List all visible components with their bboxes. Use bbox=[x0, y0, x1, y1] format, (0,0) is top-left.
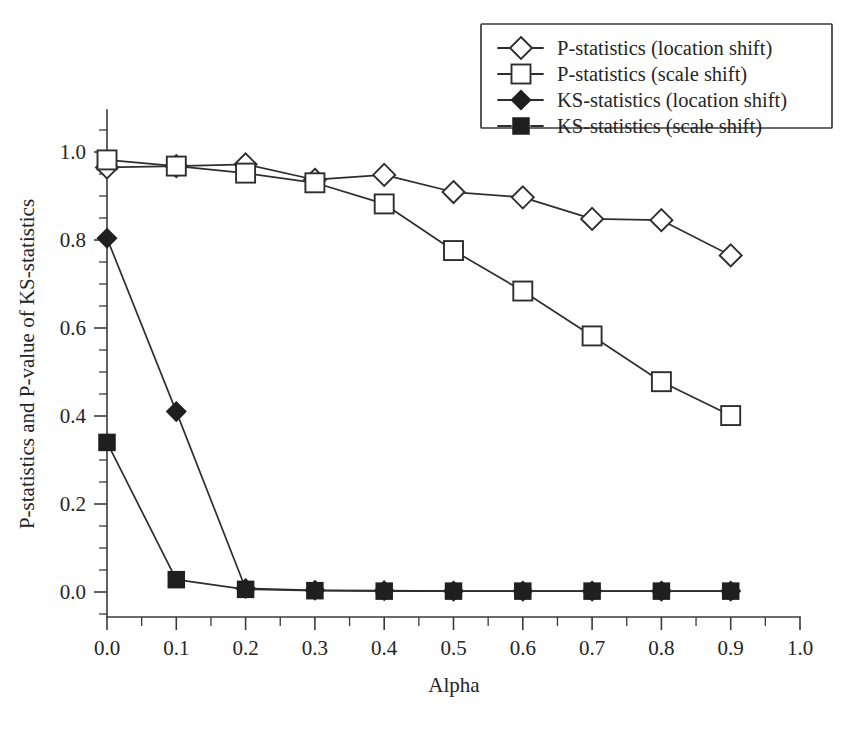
legend-marker-square-open bbox=[512, 65, 531, 84]
x-tick-label: 0.7 bbox=[579, 636, 605, 660]
y-axis-title: P-statistics and P-value of KS-statistic… bbox=[15, 199, 39, 529]
x-tick-label: 0.5 bbox=[440, 636, 466, 660]
data-point-marker bbox=[584, 583, 600, 599]
data-point-marker bbox=[444, 241, 463, 260]
x-tick-label: 0.3 bbox=[302, 636, 328, 660]
legend: P-statistics (location shift)P-statistic… bbox=[481, 24, 832, 138]
data-point-marker bbox=[652, 372, 671, 391]
y-tick-label: 0.8 bbox=[60, 228, 86, 252]
data-point-marker bbox=[305, 173, 324, 192]
data-point-marker bbox=[375, 194, 394, 213]
data-point-marker bbox=[167, 157, 186, 176]
legend-marker-square-filled bbox=[513, 118, 529, 134]
data-point-marker bbox=[98, 150, 117, 169]
x-tick-label: 1.0 bbox=[787, 636, 813, 660]
data-point-marker bbox=[446, 583, 462, 599]
y-tick-label: 0.4 bbox=[60, 404, 87, 428]
x-tick-label: 0.4 bbox=[371, 636, 398, 660]
legend-label: KS-statistics (location shift) bbox=[557, 89, 787, 112]
x-tick-label: 0.9 bbox=[718, 636, 744, 660]
legend-label: KS-statistics (scale shift) bbox=[557, 115, 762, 138]
data-point-marker bbox=[721, 406, 740, 425]
y-tick-label: 0.2 bbox=[60, 492, 86, 516]
x-tick-label: 0.2 bbox=[232, 636, 258, 660]
legend-label: P-statistics (scale shift) bbox=[557, 63, 747, 86]
line-chart: 0.00.10.20.30.40.50.60.70.80.91.0 0.00.2… bbox=[0, 0, 849, 734]
data-point-marker bbox=[513, 282, 532, 301]
y-tick-label: 0.6 bbox=[60, 316, 86, 340]
data-point-marker bbox=[238, 581, 254, 597]
y-axis-title-part: P-statistics and bbox=[15, 397, 39, 529]
data-point-marker bbox=[99, 434, 115, 450]
data-point-marker bbox=[515, 583, 531, 599]
data-point-marker bbox=[723, 583, 739, 599]
x-tick-label: 0.6 bbox=[510, 636, 536, 660]
data-point-marker bbox=[376, 583, 392, 599]
data-point-marker bbox=[236, 164, 255, 183]
y-tick-label: 0.0 bbox=[60, 580, 86, 604]
data-point-marker bbox=[583, 326, 602, 345]
chart-page: 0.00.10.20.30.40.50.60.70.80.91.0 0.00.2… bbox=[0, 0, 849, 734]
data-point-marker bbox=[653, 583, 669, 599]
data-point-marker bbox=[307, 583, 323, 599]
y-axis-title-part: P bbox=[15, 386, 39, 398]
x-tick-label: 0.0 bbox=[94, 636, 120, 660]
y-tick-label: 1.0 bbox=[60, 140, 86, 164]
legend-label: P-statistics (location shift) bbox=[557, 37, 772, 60]
x-axis-title: Alpha bbox=[428, 673, 480, 697]
x-tick-label: 0.1 bbox=[163, 636, 189, 660]
data-point-marker bbox=[168, 572, 184, 588]
y-axis-title-part: -value of KS-statistics bbox=[15, 199, 39, 386]
x-tick-label: 0.8 bbox=[648, 636, 674, 660]
